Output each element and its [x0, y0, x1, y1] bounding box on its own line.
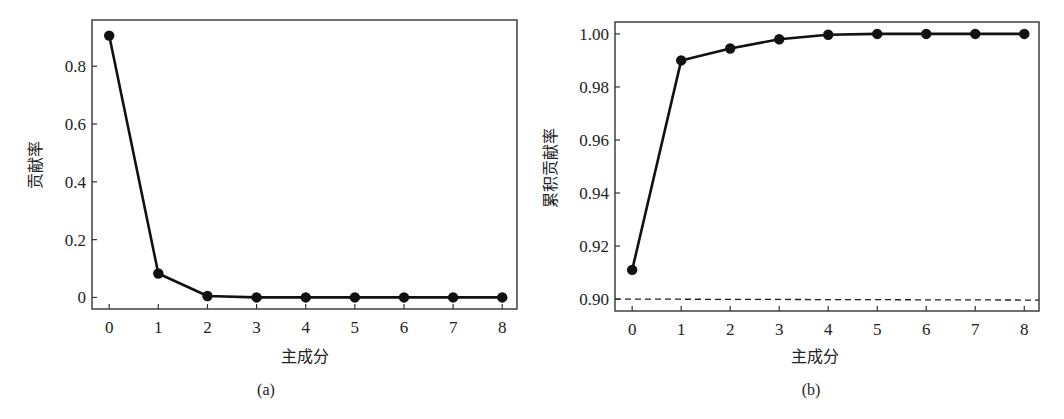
y-tick-label: 0.4	[65, 173, 87, 192]
data-point-marker	[399, 292, 409, 302]
x-tick-label: 2	[726, 320, 735, 339]
series-line	[109, 36, 502, 298]
data-point-marker	[676, 55, 686, 65]
chart-b-cumulative-contribution-rate: 0.900.920.940.960.981.00 012345678 主成分 累…	[541, 22, 1039, 399]
chart-b-y-axis-title: 累积贡献率	[541, 128, 560, 208]
chart-b-threshold-line	[615, 299, 1039, 300]
y-tick-label: 0.92	[579, 237, 609, 256]
data-point-marker	[350, 292, 360, 302]
chart-a-series	[104, 30, 507, 302]
data-point-marker	[1019, 29, 1029, 39]
data-point-marker	[153, 268, 163, 278]
chart-a-contribution-rate: 00.20.40.60.8 012345678 主成分 贡献率 (a)	[26, 20, 517, 399]
x-tick-label: 1	[154, 318, 163, 337]
y-tick-label: 0.2	[65, 231, 86, 250]
data-point-marker	[627, 265, 637, 275]
y-tick-label: 0.8	[65, 57, 86, 76]
x-tick-label: 2	[203, 318, 212, 337]
chart-a-y-axis-title: 贡献率	[26, 141, 45, 189]
x-tick-label: 6	[922, 320, 931, 339]
chart-b-x-axis-title: 主成分	[791, 347, 839, 366]
x-tick-label: 6	[400, 318, 409, 337]
x-tick-label: 5	[873, 320, 882, 339]
x-tick-label: 8	[498, 318, 507, 337]
chart-b-plot-frame	[615, 22, 1039, 311]
x-tick-label: 7	[449, 318, 458, 337]
y-tick-label: 0.98	[579, 78, 609, 97]
data-point-marker	[497, 292, 507, 302]
chart-b-caption: (b)	[802, 381, 821, 399]
data-point-marker	[872, 29, 882, 39]
data-point-marker	[970, 29, 980, 39]
x-tick-label: 1	[677, 320, 686, 339]
chart-b-y-axis: 0.900.920.940.960.981.00	[579, 25, 620, 309]
data-point-marker	[202, 291, 212, 301]
data-point-marker	[448, 292, 458, 302]
x-tick-label: 0	[628, 320, 637, 339]
data-point-marker	[104, 30, 114, 40]
figure-canvas: 00.20.40.60.8 012345678 主成分 贡献率 (a) 0.90…	[0, 0, 1064, 419]
x-tick-label: 7	[971, 320, 980, 339]
x-tick-label: 5	[351, 318, 360, 337]
y-tick-label: 0.96	[579, 131, 609, 150]
y-tick-label: 0.6	[65, 115, 86, 134]
x-tick-label: 3	[252, 318, 261, 337]
data-point-marker	[301, 292, 311, 302]
y-tick-label: 0.90	[579, 290, 609, 309]
x-tick-label: 8	[1020, 320, 1029, 339]
data-point-marker	[774, 34, 784, 44]
series-line	[632, 34, 1024, 270]
y-tick-label: 0	[78, 288, 87, 307]
data-point-marker	[921, 29, 931, 39]
chart-b-series	[627, 29, 1030, 275]
chart-a-x-axis-title: 主成分	[281, 347, 329, 366]
data-point-marker	[823, 30, 833, 40]
y-tick-label: 0.94	[579, 184, 609, 203]
data-point-marker	[251, 292, 261, 302]
chart-a-caption: (a)	[257, 381, 275, 399]
data-point-marker	[725, 43, 735, 53]
x-tick-label: 0	[105, 318, 114, 337]
x-tick-label: 4	[301, 318, 310, 337]
y-tick-label: 1.00	[579, 25, 609, 44]
x-tick-label: 3	[775, 320, 784, 339]
x-tick-label: 4	[824, 320, 833, 339]
reference-line	[615, 299, 1039, 300]
